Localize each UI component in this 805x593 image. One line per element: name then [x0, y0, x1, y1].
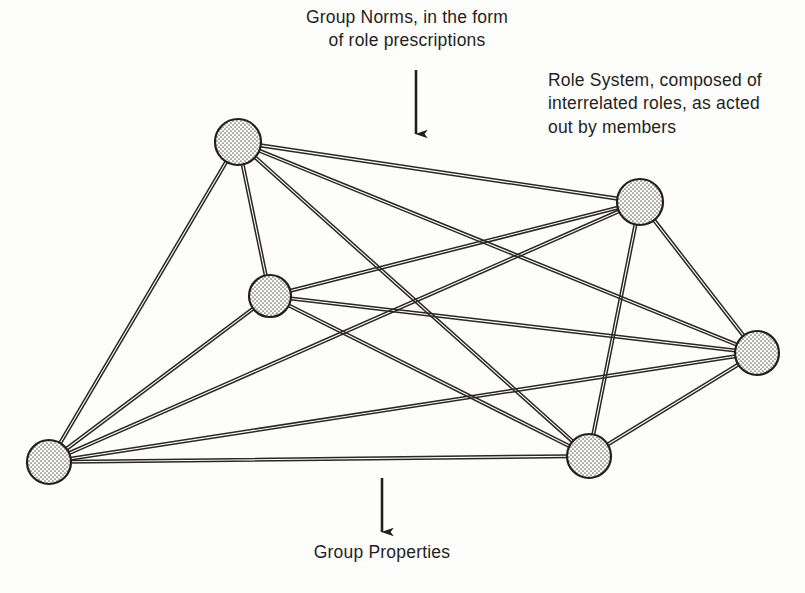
diagram-canvas: Group Norms, in the form of role prescri…	[0, 0, 805, 593]
graph-edge	[592, 222, 637, 436]
graph-edge	[289, 297, 738, 352]
graph-node[interactable]	[215, 119, 261, 165]
graph-node[interactable]	[617, 179, 663, 225]
graph-edge	[652, 218, 746, 338]
annotation-role-system: Role System, composed of interrelated ro…	[548, 69, 798, 139]
node-layer	[27, 119, 779, 484]
graph-node[interactable]	[567, 434, 611, 478]
graph-node[interactable]	[735, 331, 779, 375]
graph-edge	[58, 159, 228, 445]
annotation-group-norms: Group Norms, in the form of role prescri…	[281, 6, 533, 53]
graph-edge	[259, 144, 620, 200]
graph-node[interactable]	[27, 440, 71, 484]
graph-edge	[257, 149, 739, 347]
graph-node[interactable]	[249, 275, 291, 317]
annotation-group-properties: Group Properties	[282, 541, 482, 564]
graph-edge	[288, 206, 620, 293]
graph-edge	[241, 162, 267, 277]
graph-edge	[64, 306, 255, 451]
graph-edge	[69, 455, 569, 463]
